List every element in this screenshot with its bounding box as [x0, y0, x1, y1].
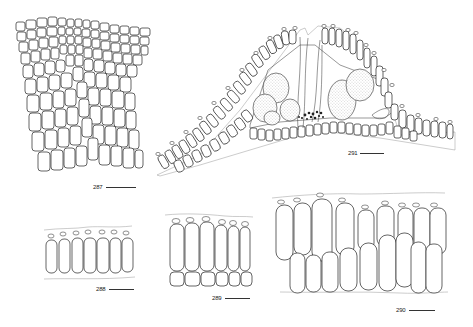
scale-bar-287 — [106, 187, 136, 188]
figure-label-287: 287 — [93, 184, 102, 190]
scale-bar-289 — [225, 298, 250, 299]
plate-drawing — [0, 0, 473, 327]
figure-label-290: 290 — [396, 307, 405, 313]
figure-label-289: 289 — [212, 295, 221, 301]
scale-bar-290 — [409, 310, 435, 311]
figure-label-291: 291 — [348, 150, 357, 156]
figure-287-drawing — [16, 17, 150, 171]
scale-bar-288 — [109, 289, 134, 290]
figure-plate: 287 288 289 290 291 — [0, 0, 473, 327]
figure-289-drawing — [165, 214, 253, 286]
figure-288-drawing — [44, 226, 135, 279]
figure-291-drawing — [156, 24, 455, 176]
figure-label-288: 288 — [96, 286, 105, 292]
figure-290-drawing — [272, 193, 448, 294]
scale-bar-291 — [360, 153, 384, 154]
